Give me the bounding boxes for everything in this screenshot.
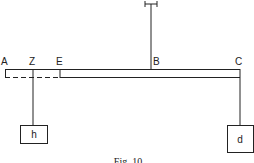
figure-caption: Fig. 10 (114, 156, 142, 163)
point-a-label: A (1, 56, 8, 67)
weight-h-label: h (31, 129, 37, 140)
weight-d-label: d (237, 134, 243, 145)
point-z-label: Z (29, 56, 35, 67)
point-b-label: B (153, 56, 160, 67)
lever-diagram: h d A Z E B C Fig. 10 (0, 0, 254, 163)
point-c-label: C (235, 56, 242, 67)
point-e-label: E (56, 56, 63, 67)
